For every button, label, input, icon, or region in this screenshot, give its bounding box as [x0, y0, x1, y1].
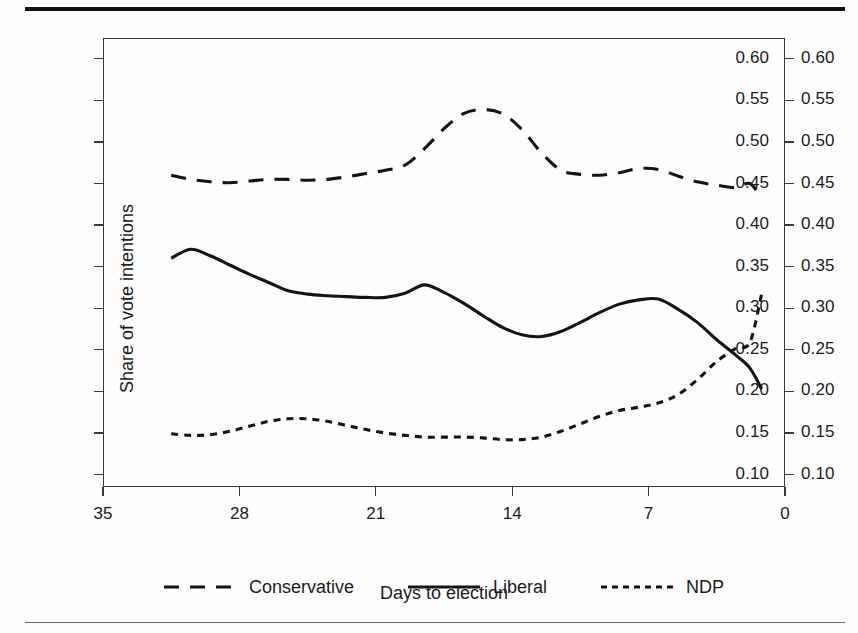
y-tick-left [94, 349, 103, 350]
y-tick-label-right: 0.45 [801, 173, 858, 193]
plot-area: 0.100.150.200.250.300.350.400.450.500.55… [103, 38, 785, 487]
y-tick-label-left: 0.50 [709, 131, 769, 151]
y-tick-right [785, 308, 794, 309]
y-tick-label-left: 0.25 [709, 339, 769, 359]
y-tick-label-right: 0.60 [801, 48, 858, 68]
y-tick-label-left: 0.20 [709, 380, 769, 400]
y-tick-right [785, 183, 794, 184]
y-tick-label-right: 0.25 [801, 339, 858, 359]
y-tick-right [785, 349, 794, 350]
x-tick [784, 487, 785, 496]
x-tick [512, 487, 513, 496]
series-line-conservative [171, 110, 761, 199]
chart-legend: ConservativeLiberalNDP [103, 574, 785, 600]
y-tick-left [94, 183, 103, 184]
y-tick-right [785, 100, 794, 101]
y-tick-label-left: 0.45 [709, 173, 769, 193]
legend-swatch-conservative-icon [164, 580, 236, 594]
legend-label: NDP [686, 577, 724, 598]
top-rule [25, 7, 845, 11]
y-tick-right [785, 432, 794, 433]
y-tick-label-left: 0.15 [709, 422, 769, 442]
figure-canvas: 0.100.150.200.250.300.350.400.450.500.55… [0, 0, 858, 633]
x-tick-label: 14 [503, 504, 522, 524]
y-tick-right [785, 266, 794, 267]
legend-label: Liberal [493, 577, 547, 598]
y-tick-label-left: 0.60 [709, 48, 769, 68]
y-tick-label-right: 0.20 [801, 380, 858, 400]
y-tick-right [785, 474, 794, 475]
y-tick-label-left: 0.40 [709, 214, 769, 234]
x-tick-label: 21 [366, 504, 385, 524]
y-tick-label-right: 0.55 [801, 89, 858, 109]
x-tick-label: 7 [644, 504, 653, 524]
y-tick-right [785, 224, 794, 225]
y-tick-label-right: 0.10 [801, 464, 858, 484]
y-tick-label-right: 0.30 [801, 297, 858, 317]
y-tick-label-right: 0.15 [801, 422, 858, 442]
y-tick-left [94, 224, 103, 225]
legend-item-conservative: Conservative [164, 577, 354, 598]
y-tick-label-right: 0.35 [801, 256, 858, 276]
x-tick-label: 35 [94, 504, 113, 524]
y-tick-right [785, 141, 794, 142]
y-tick-left [94, 58, 103, 59]
y-tick-label-left: 0.30 [709, 297, 769, 317]
y-tick-left [94, 141, 103, 142]
series-line-ndp [171, 294, 761, 440]
x-tick-label: 0 [780, 504, 789, 524]
y-tick-left [94, 100, 103, 101]
legend-swatch-liberal-icon [408, 580, 480, 594]
y-tick-left [94, 474, 103, 475]
x-tick [239, 487, 240, 496]
legend-item-ndp: NDP [601, 577, 724, 598]
y-tick-label-left: 0.55 [709, 89, 769, 109]
y-tick-left [94, 391, 103, 392]
y-tick-right [785, 391, 794, 392]
y-tick-left [94, 432, 103, 433]
y-tick-label-right: 0.40 [801, 214, 858, 234]
y-tick-label-left: 0.35 [709, 256, 769, 276]
y-tick-left [94, 308, 103, 309]
legend-swatch-ndp-icon [601, 580, 673, 594]
legend-label: Conservative [249, 577, 354, 598]
bottom-rule [25, 622, 845, 623]
y-tick-right [785, 58, 794, 59]
series-line-liberal [171, 249, 761, 389]
y-tick-label-right: 0.50 [801, 131, 858, 151]
y-tick-label-left: 0.10 [709, 464, 769, 484]
legend-item-liberal: Liberal [408, 577, 547, 598]
x-tick [648, 487, 649, 496]
chart-lines [103, 38, 785, 487]
y-tick-left [94, 266, 103, 267]
x-tick [375, 487, 376, 496]
y-axis-title: Share of vote intentions [117, 149, 138, 449]
x-tick-label: 28 [230, 504, 249, 524]
x-tick [102, 487, 103, 496]
